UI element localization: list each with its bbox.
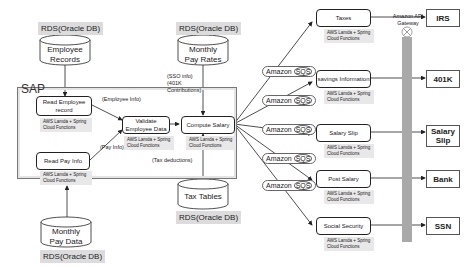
validate-employee-data-box: Validate Employee Data	[122, 116, 170, 134]
service-salary-slip-box: Salary Slip	[316, 124, 371, 142]
validate-note: AWS Lamda + Spring Cloud Functions	[124, 136, 174, 150]
service-taxes-note: AWS Lamda + Spring Cloud Functions	[324, 29, 374, 43]
db-tax-tables: Tax Tables	[180, 190, 226, 204]
edge-label-sso-info: (SSO info) (401K Contributions)	[167, 73, 201, 94]
compute-salary-box: Compute Salary	[181, 116, 235, 134]
db-monthly-pay-rates: Monthly Pay Rates	[183, 45, 223, 65]
service-post-salary-note: AWS Lamda + Spring Cloud Functions	[324, 190, 374, 204]
edge-label-tax-deductions: (Tax deductions)	[152, 157, 192, 164]
service-savings-note: AWS Lamda + Spring Cloud Functions	[324, 90, 374, 104]
sap-title: SAP	[21, 82, 45, 96]
service-salary-slip-note: AWS Lamda + Spring Cloud Functions	[324, 144, 374, 158]
service-taxes-box: Taxes	[316, 9, 371, 27]
rds-label-pay-data: RDS(Oracle DB)	[40, 250, 105, 263]
db-employee-records: Employee Records	[46, 45, 84, 65]
service-social-security-note: AWS Lamda + Spring Cloud Functions	[324, 237, 374, 251]
target-bank: Bank	[426, 170, 460, 188]
target-401k: 401K	[426, 70, 460, 88]
target-irs: IRS	[426, 9, 460, 27]
rds-label-tax-tables: RDS(Oracle DB)	[176, 211, 241, 224]
read-employee-note: AWS Lamda + Spring Cloud Functions	[40, 118, 92, 132]
read-pay-info-box: Read Pay Info	[36, 152, 90, 170]
read-employee-record-box: Read Employee record	[36, 96, 92, 116]
edge-label-pay-info: (Pay Info)	[100, 144, 124, 151]
sqs-queue-savings: Amazon SQS	[262, 95, 316, 106]
rds-label-pay-rates: RDS(Oracle DB)	[176, 22, 241, 35]
target-ssn: SSN	[426, 217, 460, 235]
read-pay-note: AWS Lamda + Spring Cloud Functions	[40, 171, 92, 185]
api-gateway-label: Amazon API Gateway	[390, 13, 426, 27]
rds-label-employee: RDS(Oracle DB)	[38, 22, 103, 35]
compute-note: AWS Lamda + Spring Cloud Functions	[186, 136, 236, 150]
service-post-salary-box: Post Salary	[316, 170, 371, 188]
sqs-queue-taxes: Amazon SQS	[262, 66, 316, 77]
sqs-queue-salary-slip: Amazon SQS	[262, 124, 316, 135]
target-salary-slip: Salary Slip	[426, 125, 460, 147]
service-savings-box: savings Information	[316, 70, 371, 88]
service-social-security-box: Social Security	[316, 217, 371, 235]
sqs-queue-social-security: Amazon SQS	[262, 180, 316, 191]
api-gateway-bar	[402, 37, 412, 242]
db-monthly-pay-data: Monthly Pay Data	[47, 227, 85, 247]
sqs-queue-post-salary: Amazon SQS	[262, 153, 316, 164]
edge-label-employee-info: (Employee Info)	[102, 96, 141, 103]
